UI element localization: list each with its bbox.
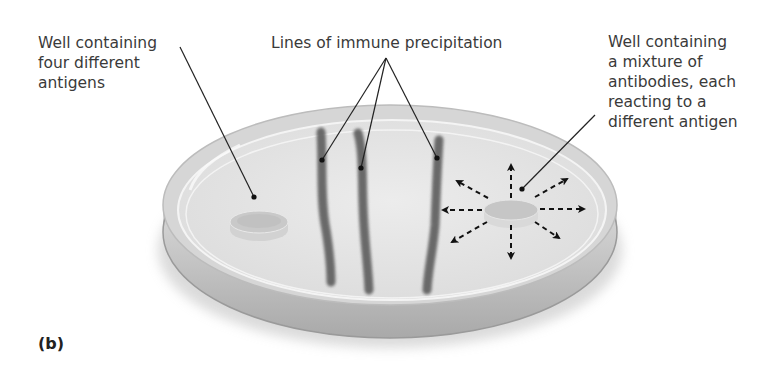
figure-part-label: (b) [38,334,64,354]
label-antibody-well: Well containing a mixture of antibodies,… [608,32,738,132]
antibody-well [484,200,538,228]
antigen-well [230,211,288,241]
label-antigen-well: Well containing four different antigens [38,33,157,93]
label-precipitation-lines: Lines of immune precipitation [271,33,502,53]
